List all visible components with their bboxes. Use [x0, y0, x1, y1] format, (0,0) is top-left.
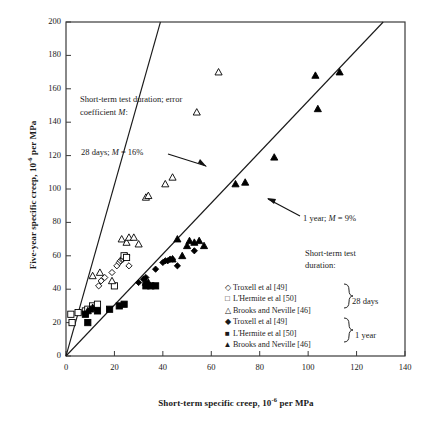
legend-group-1year: 1 year: [355, 330, 376, 340]
x-tick-label: 40: [148, 362, 178, 372]
y-tick-label: 180: [27, 49, 61, 59]
chart-figure: Five-year specific creep, 10-6 per MPa S…: [0, 0, 432, 429]
legend-item-label: L'Hermite et al [50]: [233, 293, 296, 304]
y-tick-label: 140: [27, 116, 61, 126]
y-tick-label: 60: [27, 250, 61, 260]
y-tick-label: 20: [27, 317, 61, 327]
y-tick-label: 0: [27, 350, 61, 360]
legend: ◇Troxell et al [49]□L'Hermite et al [50]…: [222, 282, 342, 350]
y-axis-title: Five-year specific creep, 10-6 per MPa: [26, 75, 38, 315]
legend-item-label: L'Hermite et al [50]: [233, 328, 296, 339]
x-tick-label: 60: [196, 362, 226, 372]
legend-marker-icon: ■: [222, 328, 233, 339]
legend-item: ▲Brooks and Neville [46]: [222, 339, 342, 350]
legend-item: ◇Troxell et al [49]: [222, 282, 342, 293]
annotation-header: Short-term test duration; error coeffici…: [80, 93, 260, 119]
legend-marker-icon: ◇: [222, 282, 233, 293]
y-tick-label: 40: [27, 283, 61, 293]
x-tick-label: 20: [99, 362, 129, 372]
legend-marker-icon: □: [222, 293, 233, 304]
y-tick-label: 160: [27, 83, 61, 93]
annotation-fit-28days: 28 days; M = 16%: [81, 146, 201, 159]
legend-title: Short-term test duration:: [305, 247, 397, 271]
legend-group-28days: 28 days: [352, 296, 378, 306]
legend-item: □L'Hermite et al [50]: [222, 293, 342, 304]
legend-item: ◆Troxell et al [49]: [222, 316, 342, 327]
legend-marker-icon: ◆: [222, 316, 233, 327]
x-tick-label: 120: [342, 362, 372, 372]
legend-item-label: Brooks and Neville [46]: [233, 305, 311, 316]
legend-braces: [344, 284, 353, 342]
legend-item: △Brooks and Neville [46]: [222, 305, 342, 316]
legend-item-label: Troxell et al [49]: [233, 282, 287, 293]
x-tick-label: 100: [293, 362, 323, 372]
y-tick-label: 80: [27, 216, 61, 226]
x-tick-label: 80: [245, 362, 275, 372]
legend-item: ■L'Hermite et al [50]: [222, 328, 342, 339]
legend-item-label: Brooks and Neville [46]: [233, 339, 311, 350]
x-axis-title: Short-term specific creep, 10-6 per MPa: [66, 396, 406, 408]
y-tick-label: 200: [27, 16, 61, 26]
y-tick-label: 100: [27, 183, 61, 193]
annotation-fit-1year: 1 year; M = 9%: [303, 212, 413, 225]
legend-marker-icon: ▲: [222, 339, 233, 350]
legend-item-label: Troxell et al [49]: [233, 316, 287, 327]
legend-marker-icon: △: [222, 305, 233, 316]
x-tick-label: 0: [51, 362, 81, 372]
y-tick-label: 120: [27, 150, 61, 160]
x-tick-label: 140: [390, 362, 420, 372]
